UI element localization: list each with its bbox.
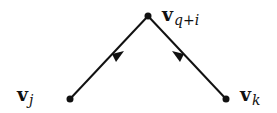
edge-top-to-right bbox=[148, 16, 226, 99]
label-right-node: vk bbox=[240, 85, 261, 107]
label-base: v bbox=[240, 83, 251, 105]
label-subscript: q+i bbox=[174, 12, 199, 28]
graph-canvas bbox=[0, 0, 277, 113]
label-base: v bbox=[162, 3, 173, 25]
label-base: v bbox=[17, 83, 28, 105]
node-left bbox=[67, 96, 74, 103]
label-subscript: k bbox=[252, 92, 260, 108]
label-top-node: vq+i bbox=[162, 5, 199, 27]
label-subscript: j bbox=[29, 92, 33, 108]
node-right bbox=[223, 96, 230, 103]
node-top bbox=[145, 13, 152, 20]
label-left-node: vj bbox=[17, 85, 33, 107]
edge-top-to-left bbox=[70, 16, 148, 99]
